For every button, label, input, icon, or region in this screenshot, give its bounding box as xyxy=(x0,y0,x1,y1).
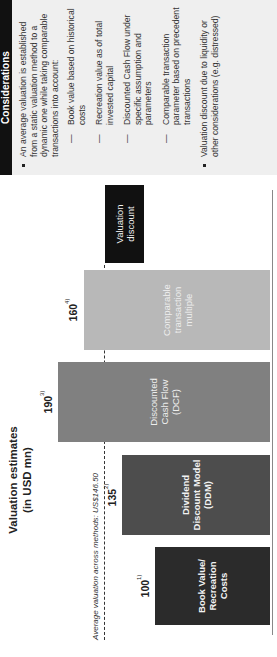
bar-value-ddm: 1352) xyxy=(106,465,118,525)
considerations-panel: Considerations An average valuation is e… xyxy=(0,0,277,175)
considerations-header: Considerations xyxy=(0,0,12,175)
bullet-icon xyxy=(203,164,206,167)
average-label: Average valuation across methods: US$146… xyxy=(91,473,100,640)
chart-title-line2: (in USD mn) xyxy=(20,400,34,560)
slide: Valuation estimates (in USD mn) Average … xyxy=(0,0,277,657)
chart-title-line1: Valuation estimates xyxy=(6,400,20,560)
sub-item: —Comparable transaction parameter based … xyxy=(161,6,193,143)
considerations-bullet-1: An average valuation is established from… xyxy=(18,6,192,167)
bar-value-dcf: 1903) xyxy=(42,372,54,432)
dash-icon: — xyxy=(122,134,133,143)
dash-icon: — xyxy=(161,134,172,143)
bar-ddm: Dividend Discount Model (DDM) xyxy=(122,455,270,535)
dash-icon: — xyxy=(66,134,77,143)
bar-value-comparable: 1604) xyxy=(67,280,79,340)
dash-icon: — xyxy=(94,134,105,143)
sub-item: —Recreation value as of total invested c… xyxy=(94,6,115,143)
bar-value-book: 1001) xyxy=(139,556,151,616)
x-axis-baseline xyxy=(272,190,273,635)
bar-comparable: Comparable transaction multiple xyxy=(84,270,270,350)
sub-item: —Discounted Cash Flow under specific ass… xyxy=(122,6,154,143)
bullet-icon xyxy=(22,164,25,167)
chart-title: Valuation estimates (in USD mn) xyxy=(6,400,34,560)
considerations-list: An average valuation is established from… xyxy=(12,0,220,175)
bar-dcf: Discounted Cash Flow (DCF) xyxy=(58,362,270,442)
bar-book-value: Book Value/ Recreation Costs xyxy=(155,547,270,625)
valuation-discount-box: Valuation discount xyxy=(105,185,144,263)
sub-item: —Book value based on historical costs xyxy=(66,6,87,143)
considerations-bullet-2: Valuation discount due to liquidity or o… xyxy=(199,6,220,167)
considerations-sublist: —Book value based on historical costs —R… xyxy=(66,6,192,157)
